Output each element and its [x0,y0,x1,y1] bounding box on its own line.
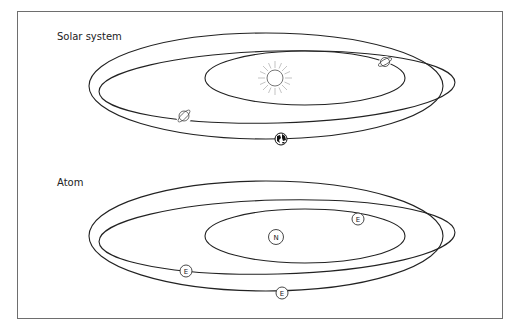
electron: E [276,287,288,299]
inner-orbit [205,51,405,105]
electron-label: E [184,268,188,276]
middle-orbit [98,46,456,127]
planet-ringed-icon [377,56,392,68]
nucleus: N [269,230,284,245]
electron-label: E [280,290,284,298]
inner-orbit [205,209,405,263]
sun-icon [258,61,292,95]
electron: E [180,265,192,277]
atom-diagram: N E E E [89,181,456,299]
electron: E [352,213,364,225]
electron-label: E [356,216,360,224]
planet-ringed-icon [176,108,192,124]
earth-icon [275,133,287,145]
diagram-canvas: N E E E [0,0,520,334]
solar-system-diagram [89,33,456,145]
nucleus-label: N [273,234,278,242]
